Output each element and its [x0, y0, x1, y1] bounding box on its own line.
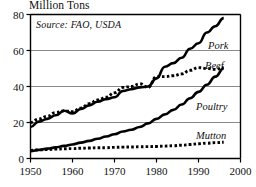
x-tick-label-1950: 1950: [13, 165, 49, 177]
series-line-poultry: [31, 69, 224, 152]
y-tick-label-80: 80: [0, 9, 24, 21]
x-tick-label-1960: 1960: [55, 165, 91, 177]
y-tick-label-20: 20: [0, 117, 24, 129]
x-tick-label-1980: 1980: [139, 165, 175, 177]
data-series-group: [31, 18, 224, 151]
x-tick-label-2000: 2000: [223, 165, 256, 177]
series-label-poultry: Poultry: [196, 101, 228, 112]
chart-container: Million Tons Source: FAO, USDA 020406080…: [0, 0, 255, 187]
x-tick-label-1970: 1970: [97, 165, 133, 177]
series-label-pork: Pork: [208, 40, 228, 51]
y-tick-label-40: 40: [0, 81, 24, 93]
series-label-beef: Beef: [205, 60, 224, 71]
series-label-mutton: Mutton: [196, 130, 226, 141]
x-tick-label-1990: 1990: [181, 165, 217, 177]
y-tick-label-0: 0: [0, 153, 24, 165]
series-line-pork: [31, 18, 224, 127]
y-tick-label-60: 60: [0, 45, 24, 57]
chart-plot-area: [0, 0, 255, 187]
